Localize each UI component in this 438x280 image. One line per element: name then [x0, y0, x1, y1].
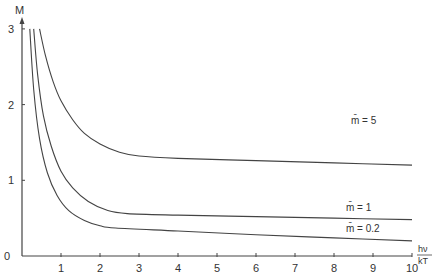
x-axis-label-denominator: kT: [418, 256, 429, 266]
x-tick-label: 10: [406, 262, 418, 274]
y-tick-label: 1: [8, 174, 14, 186]
tick-labels: 12345678910123: [8, 23, 418, 274]
curve-label-m1: m̄ = 1: [346, 201, 372, 213]
y-axis-arrow-icon: [20, 17, 25, 24]
x-tick-label: 8: [331, 262, 337, 274]
x-axis-label-numerator: hν: [418, 244, 428, 254]
x-tick-label: 7: [292, 262, 298, 274]
x-tick-label: 3: [136, 262, 142, 274]
x-tick-label: 6: [253, 262, 259, 274]
curve-label-m5: m̄ = 5: [351, 114, 377, 126]
chart: 12345678910123 M 0 hν kT m̄ = 5 m̄ = 1 m…: [0, 0, 438, 280]
axes: [20, 17, 413, 256]
y-tick-label: 2: [8, 99, 14, 111]
x-tick-label: 9: [370, 262, 376, 274]
y-axis-label: M: [15, 4, 24, 16]
x-tick-label: 2: [97, 262, 103, 274]
curve-label-m02: m̄ = 0.2: [346, 222, 380, 234]
x-tick-label: 5: [214, 262, 220, 274]
origin-label: 0: [4, 250, 10, 262]
x-tick-label: 1: [58, 262, 64, 274]
curve-series-0: [40, 29, 412, 165]
y-tick-label: 3: [8, 23, 14, 35]
x-tick-label: 4: [175, 262, 181, 274]
